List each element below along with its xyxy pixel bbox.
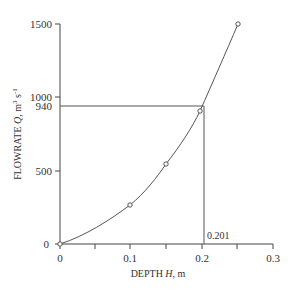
y-tick-label-1500: 1500 bbox=[30, 18, 53, 30]
x-tick-label-0: 0 bbox=[57, 252, 63, 264]
flowrate-depth-chart: 0 500 1000 940 1500 0 0.1 0.2 0.3 DEPTH … bbox=[0, 0, 292, 292]
data-point bbox=[236, 22, 240, 26]
x-tick-label-0.3: 0.3 bbox=[266, 252, 280, 264]
flowrate-curve bbox=[60, 24, 238, 244]
data-point bbox=[198, 109, 202, 113]
y-tick-label-940: 940 bbox=[36, 100, 53, 112]
x-axis-label: DEPTH H, m bbox=[131, 268, 186, 279]
x-ticks bbox=[60, 244, 273, 249]
y-ticks bbox=[55, 24, 60, 244]
data-markers bbox=[58, 22, 240, 246]
annotation-0201: 0.201 bbox=[207, 230, 230, 241]
x-tick-label-0.1: 0.1 bbox=[123, 252, 137, 264]
data-point bbox=[164, 162, 168, 166]
y-tick-label-500: 500 bbox=[36, 165, 53, 177]
x-tick-label-0.2: 0.2 bbox=[195, 252, 209, 264]
y-axis-label: FLOWRATE Q, m3 s-1 bbox=[11, 88, 23, 180]
data-point bbox=[58, 242, 62, 246]
y-tick-label-0: 0 bbox=[44, 238, 50, 250]
data-point bbox=[128, 203, 132, 207]
